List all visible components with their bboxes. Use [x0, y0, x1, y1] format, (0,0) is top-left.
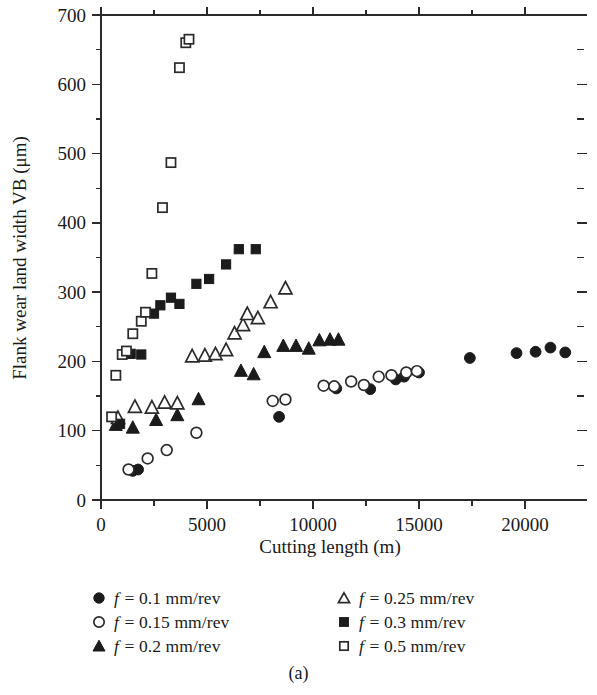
data-point — [150, 413, 163, 425]
data-point — [186, 349, 199, 361]
data-point — [373, 371, 384, 382]
legend-label-f-0-2: f = 0.2 mm/rev — [110, 636, 221, 657]
data-point — [411, 366, 422, 377]
data-point — [192, 392, 205, 404]
data-point — [277, 339, 290, 351]
data-point — [401, 367, 412, 378]
data-point — [511, 348, 522, 359]
data-point — [274, 411, 285, 422]
data-point — [358, 380, 369, 391]
data-point — [530, 346, 541, 357]
legend-marker-open-circle — [88, 612, 110, 632]
legend-label-f-0-15: f = 0.15 mm/rev — [110, 612, 229, 633]
legend-marker-open-triangle — [333, 588, 355, 608]
data-point — [241, 307, 254, 319]
data-point — [267, 396, 278, 407]
x-tick-label: 0 — [96, 514, 106, 535]
data-point — [464, 353, 475, 364]
series-open-square — [107, 35, 194, 422]
data-points-group — [107, 35, 571, 477]
legend-item-f-0-3: f = 0.3 mm/rev — [333, 610, 474, 634]
data-point — [205, 274, 214, 283]
data-point — [142, 453, 153, 464]
y-tick-label: 400 — [58, 212, 87, 233]
data-point — [560, 347, 571, 358]
legend-column-right: f = 0.25 mm/rev f = 0.3 mm/rev f = 0.5 m… — [333, 586, 474, 658]
data-point — [137, 317, 146, 326]
data-point — [166, 293, 175, 302]
y-tick-label: 200 — [58, 351, 87, 372]
y-tick-label: 700 — [58, 5, 87, 26]
data-point — [264, 295, 277, 307]
data-point — [329, 381, 340, 392]
legend-item-f-0-25: f = 0.25 mm/rev — [333, 586, 474, 610]
legend-item-f-0-2: f = 0.2 mm/rev — [88, 634, 229, 658]
y-axis-title: Flank wear land width VB (μm) — [9, 136, 31, 380]
data-point — [184, 35, 193, 44]
data-point — [141, 308, 150, 317]
y-tick-label: 300 — [58, 282, 87, 303]
y-tick-label: 500 — [58, 143, 87, 164]
legend-label-f-0-3: f = 0.3 mm/rev — [355, 612, 466, 633]
data-point — [234, 245, 243, 254]
tick-marks-group — [92, 7, 587, 509]
data-point — [175, 63, 184, 72]
scatter-plot: 0100200300400500600700050001000015000200… — [0, 0, 597, 570]
legend-item-f-0-5: f = 0.5 mm/rev — [333, 634, 474, 658]
data-point — [279, 281, 292, 293]
data-point — [545, 342, 556, 353]
data-point — [107, 412, 116, 421]
data-point — [158, 203, 167, 212]
legend-marker-open-square — [333, 636, 355, 656]
data-point — [161, 445, 172, 456]
x-axis-title: Cutting length (m) — [259, 536, 400, 558]
data-point — [126, 421, 139, 433]
y-tick-label: 600 — [58, 74, 87, 95]
legend-label-f-0-1: f = 0.1 mm/rev — [110, 588, 221, 609]
data-point — [251, 245, 260, 254]
series-open-circle — [123, 366, 422, 475]
y-tick-label: 100 — [58, 420, 87, 441]
legend-marker-filled-square — [333, 612, 355, 632]
data-point — [302, 342, 315, 354]
data-point — [386, 370, 397, 381]
data-point — [346, 376, 357, 387]
x-tick-label: 5000 — [188, 514, 226, 535]
data-point — [290, 339, 303, 351]
axes-group — [101, 15, 578, 500]
data-point — [191, 427, 202, 438]
data-point — [111, 371, 120, 380]
data-point — [156, 301, 165, 310]
tick-labels-group: 0100200300400500600700050001000015000200… — [58, 5, 549, 536]
data-point — [221, 260, 230, 269]
data-point — [280, 394, 291, 405]
legend-item-f-0-1: f = 0.1 mm/rev — [88, 586, 229, 610]
data-point — [247, 367, 260, 379]
y-tick-label: 0 — [77, 490, 87, 511]
data-point — [128, 400, 141, 412]
data-point — [147, 269, 156, 278]
data-point — [171, 397, 184, 409]
data-point — [220, 343, 233, 355]
data-point — [258, 345, 271, 357]
legend-label-f-0-5: f = 0.5 mm/rev — [355, 636, 466, 657]
x-tick-label: 10000 — [289, 514, 337, 535]
data-point — [234, 364, 247, 376]
data-point — [123, 464, 134, 475]
data-point — [166, 158, 175, 167]
x-tick-label: 20000 — [501, 514, 549, 535]
data-point — [171, 408, 184, 420]
data-point — [332, 333, 345, 345]
legend: f = 0.1 mm/rev f = 0.15 mm/rev f = 0.2 m… — [0, 586, 597, 661]
legend-marker-filled-circle — [88, 588, 110, 608]
data-point — [122, 346, 131, 355]
data-point — [158, 396, 171, 408]
figure-panel: 0100200300400500600700050001000015000200… — [0, 0, 597, 695]
x-tick-label: 15000 — [395, 514, 443, 535]
figure-caption: (a) — [0, 663, 597, 684]
data-point — [318, 380, 329, 391]
legend-item-f-0-15: f = 0.15 mm/rev — [88, 610, 229, 634]
data-point — [175, 299, 184, 308]
data-point — [192, 279, 201, 288]
data-point — [137, 350, 146, 359]
